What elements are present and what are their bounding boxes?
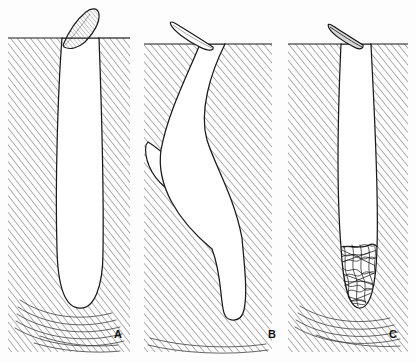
panel-b — [144, 44, 272, 353]
panel-a-burrow-cavity — [56, 38, 103, 308]
figure-drawing: A B C — [0, 0, 416, 363]
panel-label-c: C — [389, 328, 397, 340]
panel-label-a: A — [114, 328, 122, 340]
panel-c — [288, 44, 408, 352]
panel-a — [8, 38, 130, 352]
panel-c-burrow-cavity — [338, 44, 378, 308]
panel-label-b: B — [268, 328, 276, 340]
figure-container: A B C — [0, 0, 416, 363]
